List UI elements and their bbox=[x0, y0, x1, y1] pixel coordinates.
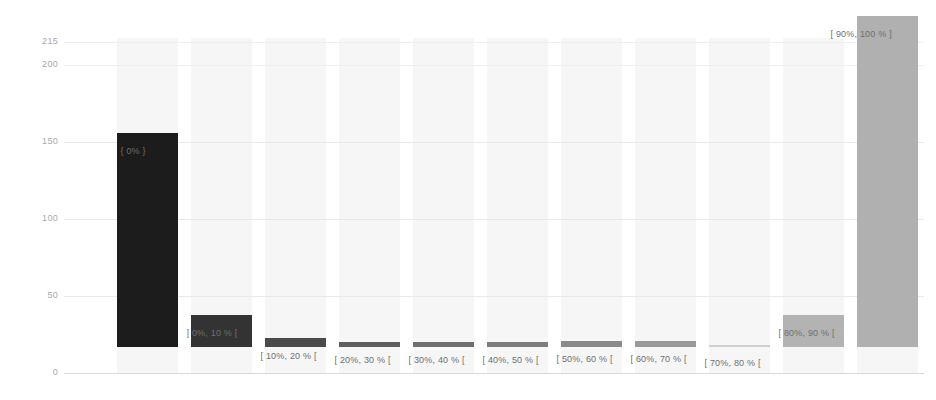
bar[interactable] bbox=[561, 341, 622, 347]
bar-value-label: [ 50%, 60 % [ bbox=[557, 354, 613, 364]
bar[interactable] bbox=[857, 16, 918, 347]
bar[interactable] bbox=[265, 338, 326, 347]
bar[interactable] bbox=[635, 341, 696, 347]
bar-slot bbox=[117, 11, 178, 347]
bar-slot bbox=[783, 11, 844, 347]
bar[interactable] bbox=[117, 133, 178, 347]
bar-slot bbox=[191, 11, 252, 347]
bar-value-label: [ 20%, 30 % [ bbox=[335, 355, 391, 365]
bar[interactable] bbox=[413, 342, 474, 347]
bar-slot bbox=[413, 11, 474, 347]
bar-value-label: [ 70%, 80 % [ bbox=[705, 358, 761, 368]
bars-layer: { 0% }] 0%, 10 % [[ 10%, 20 % [[ 20%, 30… bbox=[0, 0, 936, 374]
bar[interactable] bbox=[487, 342, 548, 347]
bar-value-label: [ 90%, 100 % ] bbox=[831, 29, 892, 39]
bar-value-label: [ 10%, 20 % [ bbox=[261, 351, 317, 361]
bar-slot bbox=[709, 11, 770, 347]
bar-slot bbox=[265, 11, 326, 347]
bar-slot bbox=[561, 11, 622, 347]
bar-value-label: [ 30%, 40 % [ bbox=[409, 355, 465, 365]
bar[interactable] bbox=[709, 345, 770, 347]
bar-slot bbox=[487, 11, 548, 347]
bar-chart: 215200150100500 { 0% }] 0%, 10 % [[ 10%,… bbox=[0, 0, 936, 400]
bar-slot bbox=[635, 11, 696, 347]
bar-value-label: { 0% } bbox=[121, 146, 146, 156]
bar[interactable] bbox=[339, 342, 400, 347]
bar-value-label: ] 0%, 10 % [ bbox=[187, 328, 238, 338]
bar-value-label: [ 60%, 70 % [ bbox=[631, 354, 687, 364]
bar-value-label: [ 80%, 90 % [ bbox=[779, 328, 835, 338]
bar-value-label: [ 40%, 50 % [ bbox=[483, 355, 539, 365]
bar-slot bbox=[339, 11, 400, 347]
bar-slot bbox=[857, 11, 918, 347]
